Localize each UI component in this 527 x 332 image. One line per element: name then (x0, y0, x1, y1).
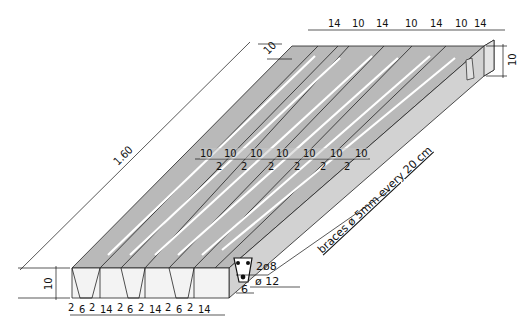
svg-text:2: 2 (117, 301, 123, 314)
svg-text:6: 6 (176, 303, 182, 316)
svg-text:10: 10 (330, 147, 343, 160)
svg-text:2: 2 (241, 160, 247, 173)
top-dims: 14 10 14 10 14 10 14 (328, 17, 487, 30)
svg-text:14: 14 (149, 303, 162, 316)
svg-text:2: 2 (344, 160, 350, 173)
svg-text:14: 14 (198, 303, 211, 316)
svg-text:6: 6 (79, 303, 85, 316)
svg-text:2: 2 (89, 301, 95, 314)
slab-front-face (72, 268, 229, 298)
svg-text:2: 2 (138, 301, 144, 314)
svg-text:2: 2 (165, 301, 171, 314)
svg-text:2: 2 (216, 160, 222, 173)
right-height-label: 10 (506, 53, 519, 66)
slab-right-end (484, 40, 494, 76)
rebar-top-label: 2ø8 (256, 260, 277, 273)
slab-drawing: 1.60 10 10 10 14 10 14 10 14 10 14 10 10… (0, 0, 527, 332)
svg-text:2: 2 (294, 160, 300, 173)
svg-text:10: 10 (276, 147, 289, 160)
svg-text:10: 10 (352, 17, 365, 30)
svg-text:10: 10 (455, 17, 468, 30)
bottom-dims: 2 6 2 14 2 6 2 14 2 6 2 14 (68, 301, 211, 316)
svg-text:14: 14 (376, 17, 389, 30)
svg-text:2: 2 (68, 301, 74, 314)
length-label: 1.60 (111, 143, 136, 168)
svg-text:10: 10 (200, 147, 213, 160)
rib-width-label: 6 (241, 283, 248, 296)
svg-text:14: 14 (100, 303, 113, 316)
front-height-label: 10 (42, 277, 55, 290)
slab-diagram: 1.60 10 10 10 14 10 14 10 14 10 14 10 10… (0, 0, 527, 332)
svg-text:10: 10 (224, 147, 237, 160)
svg-text:2: 2 (187, 301, 193, 314)
svg-text:14: 14 (328, 17, 341, 30)
svg-text:14: 14 (430, 17, 443, 30)
svg-text:2: 2 (268, 160, 274, 173)
svg-text:10: 10 (303, 147, 316, 160)
svg-text:10: 10 (355, 147, 368, 160)
rebar-bottom-label: ø 12 (255, 275, 279, 288)
svg-text:6: 6 (127, 303, 133, 316)
svg-text:14: 14 (474, 17, 487, 30)
back-thickness-label: 10 (261, 39, 279, 57)
svg-text:2: 2 (320, 160, 326, 173)
svg-text:10: 10 (405, 17, 418, 30)
svg-text:10: 10 (250, 147, 263, 160)
